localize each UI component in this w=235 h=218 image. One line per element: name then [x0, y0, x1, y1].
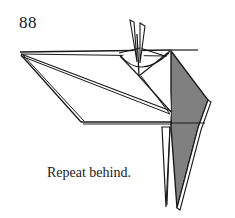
page-number: 88	[19, 13, 37, 33]
caption-text: Repeat behind.	[47, 164, 131, 182]
shaded-flap-group	[171, 51, 211, 210]
diagram-page: 88 Repeat behind.	[0, 0, 235, 218]
shaded-flap	[171, 51, 208, 208]
tail-group	[162, 127, 170, 207]
